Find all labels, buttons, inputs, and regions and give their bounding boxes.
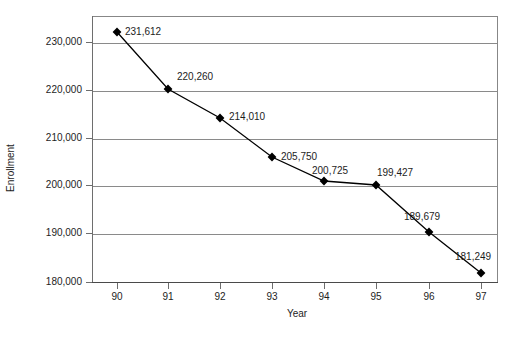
data-label-95: 199,427 bbox=[377, 168, 413, 178]
data-label-93: 205,750 bbox=[281, 152, 317, 162]
data-point-94 bbox=[320, 177, 329, 186]
data-label-94: 200,725 bbox=[312, 166, 348, 176]
data-label-96: 189,679 bbox=[404, 212, 440, 222]
enrollment-line-chart: 230,000 220,000 210,000 200,000 190,000 … bbox=[0, 0, 526, 337]
data-label-91: 220,260 bbox=[177, 72, 213, 82]
data-label-97: 181,249 bbox=[455, 252, 491, 262]
data-series bbox=[0, 0, 526, 337]
data-label-92: 214,010 bbox=[229, 112, 265, 122]
data-label-90: 231,612 bbox=[125, 27, 161, 37]
